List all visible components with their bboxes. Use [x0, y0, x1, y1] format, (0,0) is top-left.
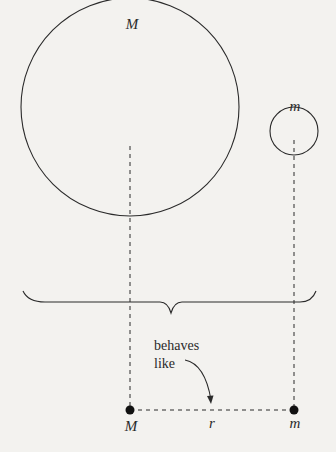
- point-mass-M-dot: [126, 406, 135, 415]
- distance-r-label: r: [209, 416, 215, 431]
- arrowhead-icon: [207, 396, 214, 405]
- large-mass-label: M: [126, 17, 139, 32]
- large-mass-circle: [21, 0, 239, 216]
- point-mass-M-label: M: [125, 419, 138, 434]
- small-mass-circle: [270, 107, 318, 155]
- gravitation-diagram: M m behaves like M r m: [0, 0, 336, 452]
- point-mass-m-label: m: [290, 416, 301, 431]
- diagram-canvas: [0, 0, 336, 452]
- curly-brace: [23, 291, 316, 313]
- annotation-line-1: behaves: [154, 337, 199, 355]
- small-mass-label: m: [290, 99, 301, 114]
- behaves-like-annotation: behaves like: [154, 337, 199, 373]
- point-mass-m-dot: [290, 406, 299, 415]
- annotation-line-2: like: [154, 355, 199, 373]
